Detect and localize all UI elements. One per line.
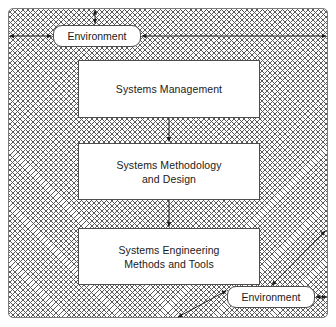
box-systems-methodology-and-design[interactable]: Systems Methodology and Design [78,143,260,200]
label-environment-top[interactable]: Environment [53,25,141,47]
label-environment-bottom[interactable]: Environment [227,286,315,308]
box-systems-engineering-line1: Systems Engineering [118,244,219,256]
box-systems-methodology-line2: and Design [142,173,196,185]
systems-engineering-diagram: Systems Management Systems Methodology a… [0,0,336,327]
label-environment-top-text: Environment [68,30,127,42]
box-systems-management[interactable]: Systems Management [78,60,260,118]
box-systems-management-line1: Systems Management [116,83,222,95]
label-environment-bottom-text: Environment [242,291,301,303]
box-systems-engineering-line2: Methods and Tools [124,258,214,270]
box-systems-engineering-methods-and-tools[interactable]: Systems Engineering Methods and Tools [78,228,260,285]
box-systems-methodology-line1: Systems Methodology [116,159,221,171]
